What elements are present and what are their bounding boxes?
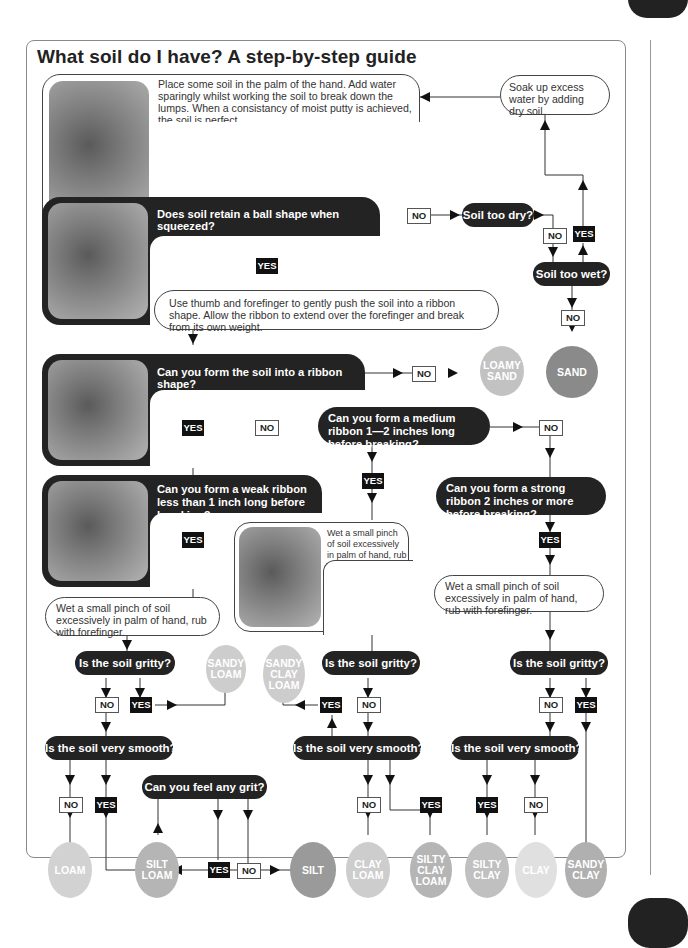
soil-clay-loam: CLAY LOAM bbox=[346, 842, 390, 898]
strong-ribbon-text: Can you form a strong ribbon 2 inches or… bbox=[446, 482, 573, 520]
soil-clay: CLAY bbox=[515, 842, 557, 898]
soil-loam: LOAM bbox=[48, 842, 92, 898]
ribbon-photo bbox=[48, 360, 148, 460]
wet-pinch-text: Wet a small pinch of soil excessively in… bbox=[56, 602, 207, 638]
no-label: NO bbox=[95, 697, 119, 713]
no-label: NO bbox=[357, 797, 381, 813]
no-label: NO bbox=[539, 420, 563, 436]
yes-label: YES bbox=[182, 420, 204, 436]
soil-silty-clay: SILTY CLAY bbox=[465, 842, 509, 898]
yes-label: YES bbox=[420, 797, 442, 813]
yes-label: YES bbox=[573, 226, 595, 242]
soil-loamy-sand: LOAMY SAND bbox=[480, 346, 524, 396]
no-label: NO bbox=[407, 208, 431, 224]
middle-mask bbox=[323, 560, 413, 635]
soil-ball-photo bbox=[48, 203, 148, 319]
yes-label: YES bbox=[362, 473, 384, 489]
ribbon-text: Use thumb and forefinger to gently push … bbox=[169, 297, 464, 333]
too-dry-question: Soil too dry? bbox=[462, 203, 534, 227]
soil-sand: SAND bbox=[546, 346, 598, 398]
yes-label: YES bbox=[320, 697, 342, 713]
smooth-question-left: Is the soil very smooth? bbox=[45, 736, 173, 760]
soil-sandy-clay-loam: SANDY CLAY LOAM bbox=[263, 645, 305, 703]
no-label: NO bbox=[357, 697, 381, 713]
no-label: NO bbox=[539, 697, 563, 713]
soak-text: Soak up excess water by adding dry soil. bbox=[509, 81, 584, 117]
yes-label: YES bbox=[208, 862, 230, 878]
no-label: NO bbox=[524, 797, 548, 813]
yes-label: YES bbox=[182, 532, 204, 548]
yes-label: YES bbox=[476, 797, 498, 813]
no-label: NO bbox=[543, 228, 567, 244]
soak-step: Soak up excess water by adding dry soil. bbox=[500, 75, 610, 115]
gritty-question-right: Is the soil gritty? bbox=[510, 651, 608, 675]
medium-ribbon-question: Can you form a medium ribbon 1—2 inches … bbox=[318, 407, 490, 445]
no-label: NO bbox=[255, 420, 279, 436]
yes-label: YES bbox=[539, 532, 561, 548]
no-label: NO bbox=[59, 797, 83, 813]
yes-label: YES bbox=[256, 258, 278, 274]
soil-sandy-clay: SANDY CLAY bbox=[565, 842, 607, 898]
hand-photo bbox=[239, 527, 321, 627]
weak-ribbon-photo bbox=[48, 481, 148, 581]
gritty-question-middle: Is the soil gritty? bbox=[322, 651, 420, 675]
right-wet-step: Wet a small pinch of soil excessively in… bbox=[434, 575, 604, 612]
smooth-question-middle: Is the soil very smooth? bbox=[293, 736, 421, 760]
grit-question: Can you feel any grit? bbox=[142, 775, 267, 799]
yes-label: YES bbox=[130, 697, 152, 713]
yes-label: YES bbox=[575, 697, 597, 713]
soil-silty-clay-loam: SILTY CLAY LOAM bbox=[410, 842, 452, 898]
gritty-question-left: Is the soil gritty? bbox=[75, 651, 175, 675]
soil-silt-loam: SILT LOAM bbox=[135, 842, 179, 898]
yes-label: YES bbox=[95, 797, 117, 813]
ball-question: Does soil retain a ball shape when squee… bbox=[157, 208, 380, 232]
moisten-text: Place some soil in the palm of the hand.… bbox=[158, 78, 413, 126]
no-label: NO bbox=[561, 310, 585, 326]
left-wet-step: Wet a small pinch of soil excessively in… bbox=[45, 597, 220, 636]
ribbon-step: Use thumb and forefinger to gently push … bbox=[154, 290, 499, 330]
too-wet-question: Soil too wet? bbox=[533, 262, 610, 286]
soil-sandy-loam: SANDY LOAM bbox=[206, 645, 246, 693]
no-label: NO bbox=[237, 863, 261, 879]
strong-ribbon-question: Can you form a strong ribbon 2 inches or… bbox=[436, 477, 606, 515]
form-ribbon-question: Can you form the soil into a ribbon shap… bbox=[157, 366, 365, 390]
no-label: NO bbox=[412, 366, 436, 382]
soil-silt: SILT bbox=[290, 842, 336, 898]
smooth-question-right: Is the soil very smooth? bbox=[451, 736, 579, 760]
wet-pinch-text: Wet a small pinch of soil excessively in… bbox=[445, 580, 578, 616]
medium-ribbon-text: Can you form a medium ribbon 1—2 inches … bbox=[328, 412, 455, 450]
